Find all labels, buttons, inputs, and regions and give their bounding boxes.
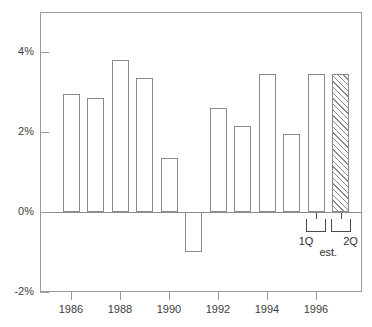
bar-1996-1Q — [308, 74, 325, 212]
x-axis-tick — [316, 292, 317, 300]
bar-1994 — [259, 74, 276, 212]
bar-chart: 4%2%0%-2% 198619881990199219941996 1Q 2Q… — [0, 0, 372, 327]
x-axis-label: 1996 — [286, 303, 346, 315]
bar-1993 — [234, 126, 251, 212]
y-axis-tick — [40, 132, 49, 133]
bar-1991 — [185, 212, 202, 252]
bar-1990 — [161, 158, 178, 212]
bar-1992 — [210, 108, 227, 212]
bar-1987 — [87, 98, 104, 212]
bar-1986 — [63, 94, 80, 212]
bar-1988 — [112, 60, 129, 212]
bar-1989 — [136, 78, 153, 212]
x-axis-tick — [71, 292, 72, 300]
quarter-2-bracket — [331, 219, 351, 232]
y-axis-label: 2% — [0, 126, 34, 137]
quarter-1-bracket-stem — [316, 213, 317, 219]
y-axis-label: 4% — [0, 46, 34, 57]
quarter-2-bracket-stem — [341, 213, 342, 219]
y-axis-label: -2% — [0, 286, 34, 297]
quarter-1-bracket — [306, 219, 326, 232]
x-axis-tick — [218, 292, 219, 300]
bar-1995 — [283, 134, 300, 212]
bar-1996-2Q — [332, 74, 349, 212]
x-axis-tick — [120, 292, 121, 300]
y-axis-tick — [40, 212, 49, 213]
y-axis-label: 0% — [0, 206, 34, 217]
y-axis-tick — [40, 52, 49, 53]
y-axis-tick — [40, 292, 49, 293]
x-axis-tick — [267, 292, 268, 300]
x-axis-tick — [169, 292, 170, 300]
estimate-label: est. — [308, 246, 348, 258]
